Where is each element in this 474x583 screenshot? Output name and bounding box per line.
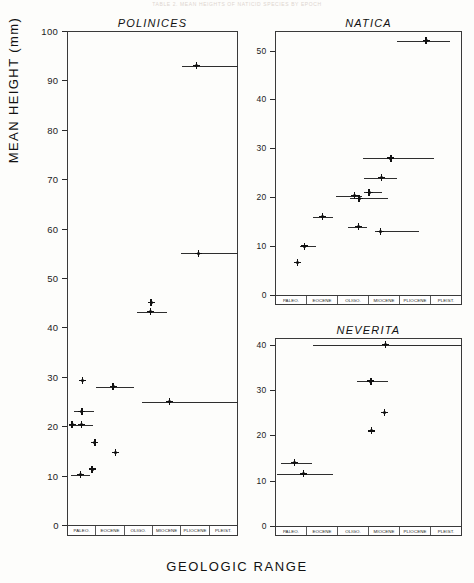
epoch-cell-pliocene: PLIOCENE — [181, 526, 209, 535]
y-tick — [62, 278, 67, 279]
y-tick-label: 20 — [256, 192, 266, 202]
panel-title-polinices: POLINICES — [67, 17, 238, 29]
data-point-core — [71, 423, 74, 426]
y-tick-label: 10 — [256, 476, 266, 486]
y-tick-label: 50 — [47, 273, 58, 284]
epoch-cell-pleist: PLEIST. — [210, 526, 237, 535]
plot-frame — [275, 338, 462, 536]
y-tick — [62, 80, 67, 81]
epoch-cell-eocene: EOCENE — [307, 527, 338, 535]
y-tick — [62, 327, 67, 328]
y-tick-label: 40 — [256, 94, 266, 104]
panel-title-neverita: NEVERITA — [275, 324, 462, 336]
y-tick — [270, 390, 275, 391]
y-tick-label: 80 — [47, 124, 58, 135]
y-tick-label: 40 — [47, 322, 58, 333]
data-point-core — [80, 423, 83, 426]
stratigraphic-axis-strip: PALEO.EOCENEOLIGO.MIOCENEPLIOCENEPLEIST. — [275, 526, 462, 536]
y-tick-label: 90 — [47, 75, 58, 86]
y-tick-label: 10 — [47, 470, 58, 481]
y-tick-label: 20 — [256, 430, 266, 440]
chart-panel-neverita: NEVERITA010203040PALEO.EOCENEOLIGO.MIOCE… — [275, 338, 462, 536]
figure-root: TABLE 2. MEAN HEIGHTS OF NATICID SPECIES… — [0, 0, 474, 583]
y-tick — [270, 246, 275, 247]
y-tick — [270, 481, 275, 482]
data-point-core — [425, 39, 428, 42]
y-tick — [270, 148, 275, 149]
data-point-core — [149, 310, 152, 313]
range-bar — [363, 158, 434, 159]
range-bar — [182, 66, 238, 67]
epoch-cell-pliocene: PLIOCENE — [400, 527, 431, 535]
y-tick-label: 40 — [256, 340, 266, 350]
epoch-cell-pleist: PLEIST. — [431, 527, 461, 535]
epoch-cell-pliocene: PLIOCENE — [400, 296, 431, 304]
plot-frame — [67, 31, 238, 536]
y-tick — [62, 130, 67, 131]
y-tick-label: 30 — [256, 143, 266, 153]
y-tick — [62, 179, 67, 180]
y-tick-label: 10 — [256, 241, 266, 251]
chart-panel-polinices: POLINICES0102030405060708090100PALEO.EOC… — [67, 31, 238, 536]
epoch-cell-paleo: PALEO. — [276, 527, 307, 535]
x-axis-label: GEOLOGIC RANGE — [0, 559, 474, 574]
y-tick — [62, 426, 67, 427]
stratigraphic-axis-strip: PALEO.EOCENEOLIGO.MIOCENEPLIOCENEPLEIST. — [275, 295, 462, 305]
y-tick — [62, 476, 67, 477]
y-tick — [270, 435, 275, 436]
data-point-core — [91, 468, 94, 471]
range-bar — [181, 253, 238, 254]
epoch-cell-miocene: MIOCENE — [153, 526, 181, 535]
data-point-core — [114, 451, 117, 454]
epoch-cell-paleo: PALEO. — [68, 526, 96, 535]
data-point-core — [112, 385, 115, 388]
epoch-cell-oligo: OLIGO. — [338, 527, 369, 535]
y-tick-label: 100 — [41, 26, 58, 37]
stratigraphic-axis-strip: PALEO.EOCENEOLIGO.MIOCENEPLIOCENEPLEIST. — [67, 525, 238, 536]
epoch-cell-paleo: PALEO. — [276, 296, 307, 304]
epoch-cell-eocene: EOCENE — [96, 526, 124, 535]
plot-frame — [275, 31, 462, 305]
y-tick — [62, 229, 67, 230]
y-tick — [270, 345, 275, 346]
data-point-core — [293, 461, 296, 464]
epoch-cell-oligo: OLIGO. — [338, 296, 369, 304]
epoch-cell-eocene: EOCENE — [307, 296, 338, 304]
epoch-cell-miocene: MIOCENE — [369, 296, 400, 304]
y-tick-label: 20 — [47, 421, 58, 432]
y-tick-label: 0 — [262, 290, 267, 300]
chart-panel-natica: NATICA01020304050PALEO.EOCENEOLIGO.MIOCE… — [275, 31, 462, 305]
data-point-core — [379, 230, 382, 233]
range-bar — [142, 402, 238, 403]
data-point-core — [358, 197, 361, 200]
epoch-cell-oligo: OLIGO. — [125, 526, 153, 535]
figure-header-text: TABLE 2. MEAN HEIGHTS OF NATICID SPECIES… — [0, 1, 474, 7]
y-tick-label: 0 — [262, 521, 267, 531]
y-axis-label: MEAN HEIGHT (mm) — [6, 5, 21, 175]
data-point-core — [303, 245, 306, 248]
data-point-core — [296, 261, 299, 264]
y-tick — [62, 31, 67, 32]
y-tick-label: 50 — [256, 46, 266, 56]
y-tick-label: 70 — [47, 174, 58, 185]
panel-title-natica: NATICA — [275, 17, 462, 29]
data-point-core — [197, 252, 200, 255]
y-tick — [270, 51, 275, 52]
data-point-core — [150, 301, 153, 304]
y-tick — [270, 99, 275, 100]
data-point-core — [81, 379, 84, 382]
epoch-cell-pleist: PLEIST. — [431, 296, 461, 304]
y-tick-label: 0 — [53, 520, 59, 531]
y-tick — [62, 377, 67, 378]
epoch-cell-miocene: MIOCENE — [369, 527, 400, 535]
y-tick — [270, 197, 275, 198]
data-point-core — [368, 191, 371, 194]
y-tick-label: 60 — [47, 223, 58, 234]
y-tick-label: 30 — [47, 371, 58, 382]
y-tick-label: 30 — [256, 385, 266, 395]
